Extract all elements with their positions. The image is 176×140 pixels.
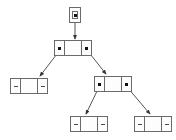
- pointer-null-icon: [14, 86, 18, 87]
- tree-node-right-child: [94, 76, 132, 92]
- tree-node-right-left-grandchild-left-pointer-cell: [71, 117, 81, 131]
- pointer-null-icon: [74, 124, 78, 125]
- tree-node-right-right-grandchild-left-pointer-cell: [135, 117, 145, 131]
- pointer-filled-icon: [85, 47, 88, 50]
- tree-node-left-child-data-cell: [21, 79, 37, 93]
- tree-node-right-child-data-cell: [105, 77, 121, 91]
- pointer-filled-icon: [58, 47, 61, 50]
- tree-node-right-right-grandchild-right-pointer-cell: [161, 117, 171, 131]
- pointer-null-icon: [165, 124, 169, 125]
- tree-node-right-left-grandchild: [70, 116, 108, 132]
- pointer-null-icon: [101, 124, 105, 125]
- tree-node-right-left-grandchild-data-cell: [81, 117, 97, 131]
- tree-node-right-right-grandchild-data-cell: [145, 117, 161, 131]
- pointer-null-icon: [138, 124, 142, 125]
- tree-edges: [40, 23, 150, 114]
- tree-node-right-right-grandchild: [134, 116, 172, 132]
- pointer-filled-icon: [125, 83, 128, 86]
- tree-node-right-child-right-pointer-cell: [121, 77, 131, 91]
- tree-node-left-child-right-pointer-cell: [37, 79, 47, 93]
- tree-node-root: [54, 40, 92, 56]
- tree-node-right-left-grandchild-right-pointer-cell: [97, 117, 107, 131]
- tree-node-left-child: [10, 78, 48, 94]
- pointer-null-icon: [41, 86, 45, 87]
- tree-node-right-child-left-pointer-cell: [95, 77, 105, 91]
- pointer-filled-icon: [74, 14, 77, 17]
- tree-node-root-right-pointer-cell: [81, 41, 91, 55]
- tree-node-root-data-cell: [65, 41, 81, 55]
- binary-tree-diagram: [0, 0, 176, 140]
- tree-node-root-left-pointer-cell: [55, 41, 65, 55]
- pointer-filled-icon: [98, 83, 101, 86]
- root-pointer-box: [69, 7, 81, 23]
- root-pointer-cell: [72, 11, 78, 19]
- tree-node-left-child-left-pointer-cell: [11, 79, 21, 93]
